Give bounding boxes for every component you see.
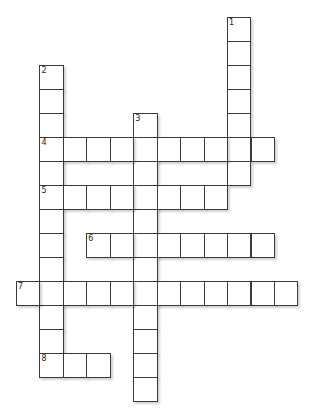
- crossword-cell[interactable]: [63, 353, 87, 378]
- cell-letter-input[interactable]: [17, 282, 39, 305]
- cell-letter-input[interactable]: [40, 234, 62, 257]
- crossword-cell[interactable]: [39, 281, 63, 306]
- cell-letter-input[interactable]: [228, 234, 250, 257]
- crossword-cell[interactable]: [227, 161, 251, 186]
- cell-letter-input[interactable]: [228, 66, 250, 89]
- crossword-cell[interactable]: [133, 209, 157, 234]
- crossword-cell[interactable]: [227, 65, 251, 90]
- cell-letter-input[interactable]: [228, 282, 250, 305]
- crossword-cell[interactable]: [180, 281, 204, 306]
- cell-letter-input[interactable]: [87, 186, 109, 209]
- crossword-cell[interactable]: [133, 281, 157, 306]
- crossword-cell[interactable]: [204, 185, 228, 210]
- cell-letter-input[interactable]: [40, 330, 62, 353]
- cell-letter-input[interactable]: [134, 162, 156, 185]
- crossword-cell[interactable]: [110, 233, 134, 258]
- cell-letter-input[interactable]: [64, 138, 86, 161]
- crossword-cell[interactable]: 8: [39, 353, 63, 378]
- cell-letter-input[interactable]: [228, 18, 250, 41]
- cell-letter-input[interactable]: [134, 354, 156, 377]
- crossword-cell[interactable]: [251, 137, 275, 162]
- crossword-cell[interactable]: [227, 89, 251, 114]
- crossword-cell[interactable]: [63, 281, 87, 306]
- crossword-cell[interactable]: [86, 281, 110, 306]
- cell-letter-input[interactable]: [252, 282, 274, 305]
- cell-letter-input[interactable]: [181, 282, 203, 305]
- cell-letter-input[interactable]: [205, 234, 227, 257]
- crossword-cell[interactable]: 2: [39, 65, 63, 90]
- crossword-cell[interactable]: [227, 137, 251, 162]
- crossword-cell[interactable]: [157, 233, 181, 258]
- crossword-cell[interactable]: [133, 257, 157, 282]
- cell-letter-input[interactable]: [228, 90, 250, 113]
- cell-letter-input[interactable]: [134, 138, 156, 161]
- cell-letter-input[interactable]: [205, 186, 227, 209]
- crossword-cell[interactable]: [251, 281, 275, 306]
- crossword-cell[interactable]: [39, 113, 63, 138]
- crossword-cell[interactable]: [204, 233, 228, 258]
- crossword-cell[interactable]: [39, 161, 63, 186]
- cell-letter-input[interactable]: [134, 234, 156, 257]
- cell-letter-input[interactable]: [40, 162, 62, 185]
- cell-letter-input[interactable]: [228, 42, 250, 65]
- crossword-cell[interactable]: [39, 233, 63, 258]
- crossword-cell[interactable]: [227, 281, 251, 306]
- crossword-cell[interactable]: [86, 353, 110, 378]
- cell-letter-input[interactable]: [134, 330, 156, 353]
- cell-letter-input[interactable]: [158, 234, 180, 257]
- crossword-cell[interactable]: [133, 305, 157, 330]
- crossword-cell[interactable]: 5: [39, 185, 63, 210]
- crossword-cell[interactable]: [227, 41, 251, 66]
- cell-letter-input[interactable]: [64, 354, 86, 377]
- crossword-cell[interactable]: [227, 233, 251, 258]
- crossword-cell[interactable]: 1: [227, 17, 251, 42]
- cell-letter-input[interactable]: [158, 282, 180, 305]
- cell-letter-input[interactable]: [40, 138, 62, 161]
- cell-letter-input[interactable]: [205, 138, 227, 161]
- cell-letter-input[interactable]: [275, 282, 297, 305]
- crossword-cell[interactable]: [39, 329, 63, 354]
- crossword-cell[interactable]: 7: [16, 281, 40, 306]
- cell-letter-input[interactable]: [228, 114, 250, 137]
- cell-letter-input[interactable]: [181, 138, 203, 161]
- cell-letter-input[interactable]: [134, 306, 156, 329]
- crossword-cell[interactable]: [86, 137, 110, 162]
- crossword-cell[interactable]: [157, 281, 181, 306]
- crossword-cell[interactable]: [274, 281, 298, 306]
- cell-letter-input[interactable]: [181, 186, 203, 209]
- crossword-cell[interactable]: [133, 137, 157, 162]
- crossword-cell[interactable]: 4: [39, 137, 63, 162]
- cell-letter-input[interactable]: [134, 114, 156, 137]
- crossword-cell[interactable]: [133, 185, 157, 210]
- crossword-cell[interactable]: [63, 185, 87, 210]
- cell-letter-input[interactable]: [252, 138, 274, 161]
- cell-letter-input[interactable]: [111, 138, 133, 161]
- cell-letter-input[interactable]: [134, 186, 156, 209]
- crossword-cell[interactable]: [110, 281, 134, 306]
- crossword-cell[interactable]: [204, 281, 228, 306]
- cell-letter-input[interactable]: [64, 186, 86, 209]
- cell-letter-input[interactable]: [228, 162, 250, 185]
- cell-letter-input[interactable]: [64, 282, 86, 305]
- crossword-cell[interactable]: [180, 185, 204, 210]
- cell-letter-input[interactable]: [87, 354, 109, 377]
- crossword-cell[interactable]: 6: [86, 233, 110, 258]
- cell-letter-input[interactable]: [40, 306, 62, 329]
- cell-letter-input[interactable]: [228, 138, 250, 161]
- cell-letter-input[interactable]: [111, 282, 133, 305]
- cell-letter-input[interactable]: [40, 66, 62, 89]
- crossword-cell[interactable]: 3: [133, 113, 157, 138]
- cell-letter-input[interactable]: [40, 354, 62, 377]
- cell-letter-input[interactable]: [87, 234, 109, 257]
- cell-letter-input[interactable]: [111, 186, 133, 209]
- crossword-cell[interactable]: [204, 137, 228, 162]
- crossword-cell[interactable]: [110, 137, 134, 162]
- crossword-cell[interactable]: [39, 89, 63, 114]
- crossword-cell[interactable]: [110, 185, 134, 210]
- crossword-cell[interactable]: [180, 137, 204, 162]
- cell-letter-input[interactable]: [134, 282, 156, 305]
- cell-letter-input[interactable]: [87, 138, 109, 161]
- cell-letter-input[interactable]: [40, 114, 62, 137]
- crossword-cell[interactable]: [133, 233, 157, 258]
- crossword-cell[interactable]: [39, 209, 63, 234]
